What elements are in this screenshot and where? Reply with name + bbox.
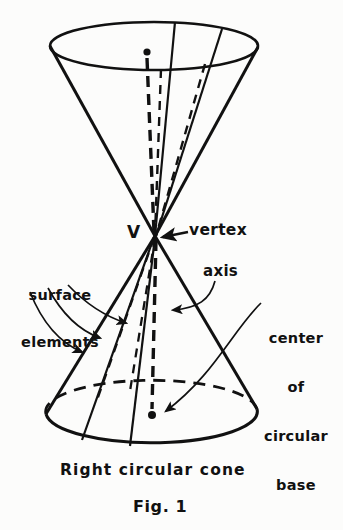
center-label-line3: circular	[264, 428, 328, 444]
surface-elements-label-line2: elements	[21, 335, 99, 351]
center-leader-arrow	[166, 303, 261, 411]
upper-rim-ellipse	[50, 22, 258, 70]
axis-leader-arrow	[173, 281, 215, 310]
center-label-line1: center	[264, 330, 328, 346]
vertex-point-label: V	[127, 223, 140, 241]
upper-nappe	[50, 22, 258, 236]
upper-axis-dot	[143, 48, 150, 55]
surface-elements-label: surface elements	[21, 257, 99, 382]
figure-caption-title: Right circular cone	[60, 462, 246, 479]
center-label-line4: base	[264, 477, 328, 493]
vertex-label: vertex	[189, 222, 247, 239]
center-of-base-label: center of circular base	[264, 298, 328, 525]
axis-upper-segment	[147, 58, 154, 232]
base-center-dot	[148, 411, 156, 419]
figure-page: V vertex axis surface elements center of…	[0, 0, 343, 530]
lower-generator-dashed-2	[130, 238, 155, 391]
axis-label: axis	[203, 263, 238, 279]
figure-caption-number: Fig. 1	[133, 498, 187, 515]
surface-elements-label-line1: surface	[21, 288, 99, 304]
center-label-line2: of	[264, 379, 328, 395]
upper-left-edge	[50, 46, 155, 236]
vertex-leader-arrow	[163, 232, 188, 237]
